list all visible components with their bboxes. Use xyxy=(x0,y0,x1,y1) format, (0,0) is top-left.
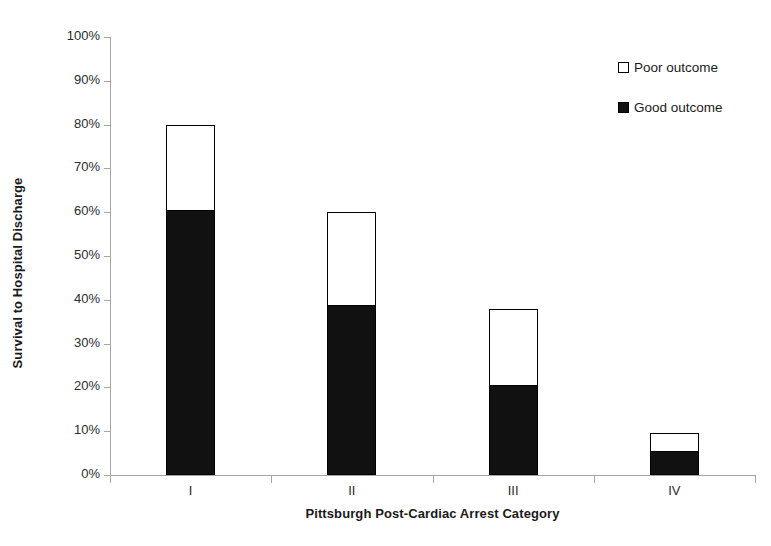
y-axis-tick-mark xyxy=(104,125,110,126)
x-axis-tick-label: IV xyxy=(629,483,719,498)
bar-segment-poor-outcome[interactable] xyxy=(489,309,538,387)
chart-figure: Survival to Hospital Discharge 0%10%20%3… xyxy=(0,0,771,546)
x-axis-tick-label: I xyxy=(146,483,236,498)
bar-segment-poor-outcome[interactable] xyxy=(327,212,376,306)
y-axis-tick-label: 80% xyxy=(56,117,100,130)
y-axis-title: Survival to Hospital Discharge xyxy=(0,0,34,546)
y-axis-tick-label: 10% xyxy=(56,423,100,436)
y-axis-tick-mark xyxy=(104,300,110,301)
x-axis-title: Pittsburgh Post-Cardiac Arrest Category xyxy=(110,506,755,521)
x-axis-tick-mark xyxy=(110,476,111,483)
y-axis-tick-mark xyxy=(104,37,110,38)
y-axis-tick-label: 20% xyxy=(56,379,100,392)
y-axis-tick-mark xyxy=(104,81,110,82)
y-axis-tick-label: 70% xyxy=(56,160,100,173)
legend-item-good-outcome[interactable]: Good outcome xyxy=(618,96,768,118)
x-axis-tick-mark xyxy=(755,476,756,483)
y-axis-tick-mark xyxy=(104,256,110,257)
bar-segment-poor-outcome[interactable] xyxy=(650,433,699,452)
y-axis-tick-label: 90% xyxy=(56,73,100,86)
bar-stack-ii[interactable] xyxy=(327,212,376,475)
legend-label: Poor outcome xyxy=(634,60,718,75)
x-axis-tick-label: III xyxy=(468,483,558,498)
x-axis-tick-mark xyxy=(594,476,595,483)
legend-item-poor-outcome[interactable]: Poor outcome xyxy=(618,56,768,78)
filled-square-icon xyxy=(618,102,629,113)
bar-segment-poor-outcome[interactable] xyxy=(166,125,215,211)
x-axis-tick-mark xyxy=(271,476,272,483)
bar-stack-i[interactable] xyxy=(166,125,215,475)
bar-segment-good-outcome[interactable] xyxy=(650,452,699,475)
y-axis-tick-mark xyxy=(104,387,110,388)
bar-stack-iv[interactable] xyxy=(650,433,699,475)
y-axis-tick-label: 100% xyxy=(56,29,100,42)
hollow-square-icon xyxy=(618,62,629,73)
bar-segment-good-outcome[interactable] xyxy=(327,306,376,475)
y-axis-tick-mark xyxy=(104,212,110,213)
y-axis-tick-label: 50% xyxy=(56,248,100,261)
y-axis-tick-mark xyxy=(104,168,110,169)
bar-segment-good-outcome[interactable] xyxy=(489,386,538,475)
y-axis-tick-label: 0% xyxy=(56,467,100,480)
bar-stack-iii[interactable] xyxy=(489,309,538,475)
legend-label: Good outcome xyxy=(634,100,723,115)
chart-legend: Poor outcome Good outcome xyxy=(618,56,768,136)
y-axis-tick-mark xyxy=(104,431,110,432)
x-axis-tick-label: II xyxy=(307,483,397,498)
y-axis-tick-label: 40% xyxy=(56,292,100,305)
y-axis-tick-mark xyxy=(104,344,110,345)
y-axis-tick-label: 30% xyxy=(56,336,100,349)
y-axis-tick-label: 60% xyxy=(56,204,100,217)
bar-segment-good-outcome[interactable] xyxy=(166,211,215,475)
y-axis-ticks: 0%10%20%30%40%50%60%70%80%90%100% xyxy=(52,0,100,546)
x-axis-tick-mark xyxy=(433,476,434,483)
